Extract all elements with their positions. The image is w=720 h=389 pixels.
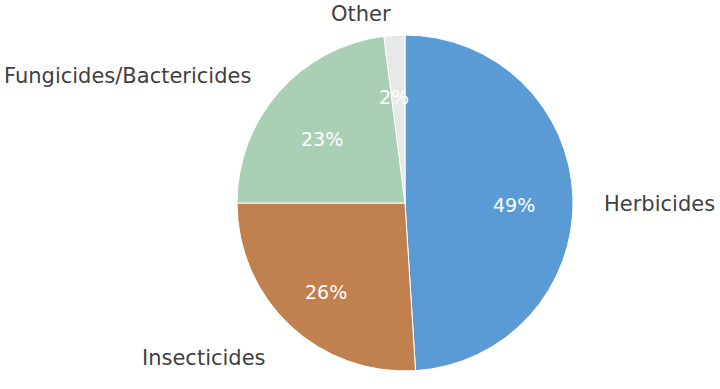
slice-label-fungicides-bactericides: Fungicides/Bactericides	[4, 66, 251, 87]
slice-value-insecticides: 26%	[305, 283, 347, 302]
slice-value-fungicides-bactericides: 23%	[301, 130, 343, 149]
pie-slice[interactable]	[405, 35, 573, 371]
slice-value-herbicides: 49%	[493, 196, 535, 215]
slice-label-herbicides: Herbicides	[604, 194, 715, 215]
pie-slice[interactable]	[237, 36, 405, 203]
pie-chart: Other Fungicides/Bactericides Herbicides…	[0, 0, 720, 389]
slice-label-other: Other	[331, 4, 391, 25]
slice-value-other: 2%	[379, 88, 409, 107]
slice-label-insecticides: Insecticides	[142, 348, 266, 369]
